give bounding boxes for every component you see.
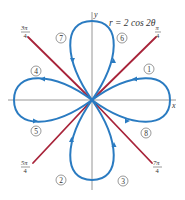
svg-text:6: 6 [120,34,124,43]
svg-text:4: 4 [156,32,160,39]
svg-text:2: 2 [59,176,63,185]
svg-text:7π: 7π [153,159,160,166]
svg-text:5: 5 [34,127,38,136]
x-axis-label: x [171,101,176,110]
svg-text:4: 4 [24,32,28,39]
equation-label: r = 2 cos 2θ [109,18,156,28]
svg-text:8: 8 [144,129,148,138]
ray-5pi-over-4 [33,100,92,163]
svg-text:3π: 3π [20,24,28,31]
ray-7pi-over-4 [92,100,152,163]
polar-rose-diagram: x y π 4 [0,0,185,200]
y-axis-label: y [93,10,98,19]
segment-numbers: 1 2 3 4 5 6 7 8 [34,34,151,186]
arrow-left-icon [40,77,45,82]
svg-text:1: 1 [147,65,151,74]
svg-text:3: 3 [121,177,125,186]
svg-text:4: 4 [156,167,160,174]
angle-label-7pi-over-4: 7π 4 [153,159,162,174]
svg-text:4: 4 [34,67,38,76]
svg-text:7: 7 [59,34,63,43]
angle-label-pi-over-4: π 4 [155,24,161,39]
svg-text:π: π [156,24,160,31]
angle-label-5pi-over-4: 5π 4 [21,159,30,174]
svg-text:4: 4 [24,167,28,174]
svg-text:5π: 5π [21,159,28,166]
arrow-down-icon [70,58,75,63]
